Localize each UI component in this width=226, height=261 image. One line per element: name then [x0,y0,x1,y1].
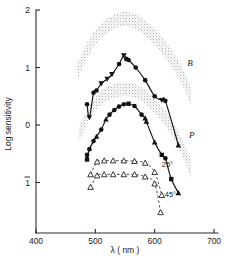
axes-layer [36,10,218,233]
y-axis-ticks [36,10,40,183]
data-point-25-1 [94,159,100,164]
y-tick-label-1: 1 [25,63,30,73]
curve-layer [87,55,179,212]
data-point-B-13 [152,94,157,99]
data-point-B-3 [94,88,99,93]
data-point-P-13 [139,112,144,117]
tick-label-layer: 2101400500600700 [25,5,222,246]
data-point-B-15 [163,99,168,104]
data-point-P-11 [126,102,130,106]
annotation-25-degrees: 25° [162,160,173,169]
data-point-25-8 [159,192,165,197]
band-layer [78,12,192,178]
x-axis-ticks [36,229,214,233]
data-point-P-10 [122,102,127,107]
data-point-25-6 [142,160,148,165]
data-point-P-3 [91,139,96,144]
curve-25deg [91,160,162,195]
x-tick-label-2: 600 [148,236,162,246]
data-point-B-12 [143,78,148,83]
data-point-P-5 [99,127,104,132]
data-point-45-1 [94,173,100,178]
annotation-45-degrees: 45° [165,190,176,199]
curve-label-p: P [188,130,195,140]
data-point-45-2 [101,172,107,177]
data-point-P-17 [160,153,164,157]
data-point-25-7 [152,169,158,174]
curve-label-b: B [187,58,193,68]
data-point-P-9 [117,104,122,109]
data-point-P-2 [87,147,92,152]
spectral-sensitivity-chart: 2101400500600700 B P 25° 45° λ ( nm ) Lo… [0,0,226,261]
data-point-P-0 [85,153,90,158]
data-point-45-6 [142,174,148,179]
data-point-25-0 [88,172,94,177]
data-point-45-7 [152,181,158,186]
x-tick-label-0: 400 [29,236,43,246]
data-point-P-12 [132,104,137,109]
data-point-45-8 [158,210,164,215]
data-point-B-7 [117,62,122,67]
data-point-B-10 [126,58,131,63]
figure-container: 2101400500600700 B P 25° 45° λ ( nm ) Lo… [0,0,226,261]
data-point-P-20 [176,190,182,195]
curve-45deg [91,174,161,212]
x-tick-label-3: 700 [207,236,221,246]
y-tick-label-2: 0 [25,120,30,130]
data-point-45-0 [88,184,94,189]
data-point-45-3 [110,172,116,177]
data-point-B-11 [133,65,138,70]
x-axis-title: λ ( nm ) [111,245,140,255]
data-point-P-16 [152,139,158,144]
data-point-45-4 [121,172,127,177]
data-point-P-1 [85,157,89,161]
y-tick-label-0: 2 [25,5,30,15]
x-tick-label-1: 500 [88,236,102,246]
y-tick-label-3: 1 [25,178,30,188]
axis-title-layer: λ ( nm ) Log sensitivity [3,97,140,255]
data-point-B-0 [85,102,90,107]
annotation-layer: B P 25° 45° [162,58,195,200]
data-point-P-7 [107,112,112,117]
y-axis-title: Log sensitivity [3,97,13,151]
data-point-P-8 [112,108,117,113]
data-point-P-19 [169,177,173,181]
